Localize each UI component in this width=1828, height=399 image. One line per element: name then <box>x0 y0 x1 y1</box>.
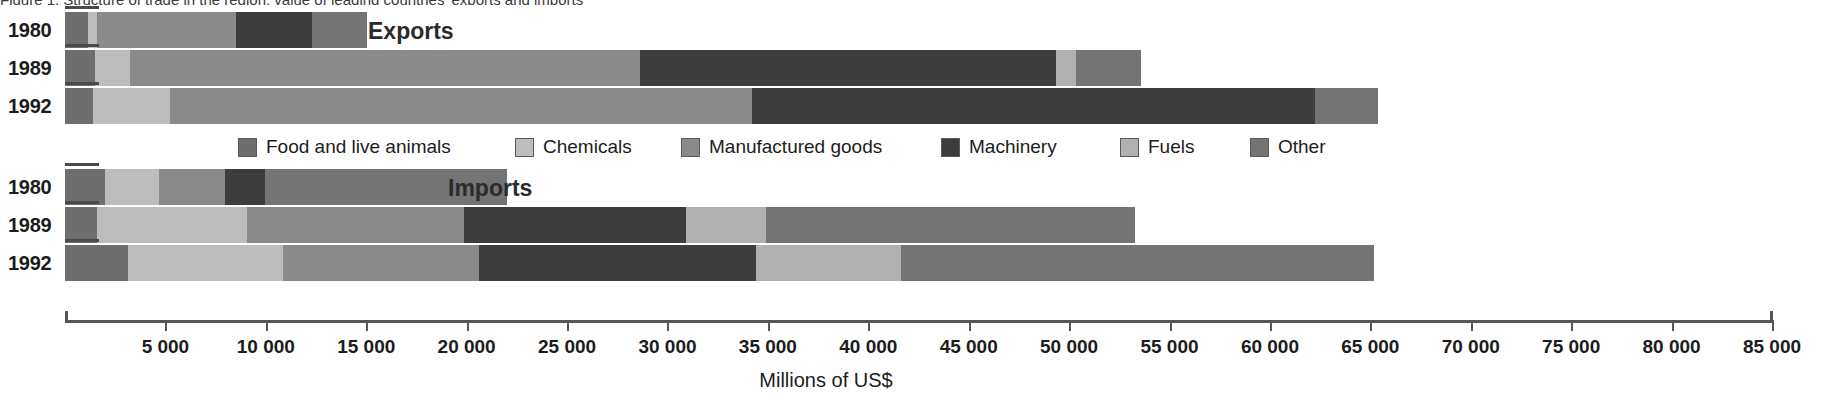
bar-segment[interactable] <box>1076 50 1141 86</box>
legend-item[interactable]: Food and live animals <box>238 136 451 158</box>
x-axis-title: Millions of US$ <box>759 369 892 392</box>
category-tick-stub <box>65 44 99 47</box>
x-axis-tick <box>1471 320 1473 331</box>
stacked-bar[interactable] <box>65 12 367 48</box>
x-axis-tick-label: 5 000 <box>142 336 190 358</box>
category-label-imports-1992: 1992 <box>8 252 64 275</box>
bar-segment[interactable] <box>686 207 766 243</box>
category-tick-stub <box>65 163 99 166</box>
x-axis-start-cap <box>65 311 68 323</box>
bar-segment[interactable] <box>312 12 367 48</box>
bar-segment[interactable] <box>65 245 128 281</box>
x-axis-tick <box>667 320 669 331</box>
bar-segment[interactable] <box>97 207 247 243</box>
bar-segment[interactable] <box>283 245 479 281</box>
legend-item[interactable]: Fuels <box>1120 136 1194 158</box>
x-axis-tick-label: 10 000 <box>237 336 295 358</box>
bar-segment[interactable] <box>1056 50 1076 86</box>
x-axis-tick-label: 70 000 <box>1442 336 1500 358</box>
bar-segment[interactable] <box>65 50 95 86</box>
x-axis-tick-label: 20 000 <box>438 336 496 358</box>
legend-label: Machinery <box>969 136 1057 158</box>
bar-segment[interactable] <box>640 50 1056 86</box>
category-tick-stub <box>65 239 99 242</box>
legend-item[interactable]: Chemicals <box>515 136 632 158</box>
stacked-bar[interactable] <box>65 207 1135 243</box>
x-axis-tick-label: 40 000 <box>839 336 897 358</box>
x-axis-tick-label: 65 000 <box>1341 336 1399 358</box>
bar-segment[interactable] <box>105 169 159 205</box>
x-axis-tick-label: 35 000 <box>739 336 797 358</box>
stacked-bar[interactable] <box>65 169 507 205</box>
legend-label: Food and live animals <box>266 136 451 158</box>
x-axis-tick <box>567 320 569 331</box>
bar-segment[interactable] <box>766 207 1135 243</box>
legend-label: Fuels <box>1148 136 1194 158</box>
category-tick-stub <box>65 201 99 204</box>
x-axis-tick-label: 50 000 <box>1040 336 1098 358</box>
x-axis-tick-label: 60 000 <box>1241 336 1299 358</box>
x-axis-tick-label: 80 000 <box>1643 336 1701 358</box>
x-axis-tick <box>868 320 870 331</box>
legend-label: Manufactured goods <box>709 136 882 158</box>
x-axis-tick <box>1571 320 1573 331</box>
category-tick-stub <box>65 82 99 85</box>
bar-segment[interactable] <box>464 207 686 243</box>
bar-segment[interactable] <box>128 245 283 281</box>
bar-segment[interactable] <box>756 245 901 281</box>
bar-segment[interactable] <box>97 12 236 48</box>
legend-swatch-icon <box>238 138 257 157</box>
x-axis-tick <box>165 320 167 331</box>
bar-segment[interactable] <box>159 169 225 205</box>
legend-swatch-icon <box>941 138 960 157</box>
bar-segment[interactable] <box>479 245 756 281</box>
x-axis-tick <box>1370 320 1372 331</box>
bar-segment[interactable] <box>65 12 88 48</box>
legend-swatch-icon <box>1250 138 1269 157</box>
stacked-bar[interactable] <box>65 245 1374 281</box>
bar-segment[interactable] <box>170 88 752 124</box>
bar-segment[interactable] <box>65 207 97 243</box>
bar-segment[interactable] <box>88 12 97 48</box>
category-label-imports-1980: 1980 <box>8 176 64 199</box>
x-axis-tick <box>266 320 268 331</box>
legend-swatch-icon <box>515 138 534 157</box>
bar-segment[interactable] <box>901 245 1374 281</box>
x-axis-tick-label: 45 000 <box>940 336 998 358</box>
x-axis-line <box>65 320 1772 323</box>
bar-segment[interactable] <box>236 12 312 48</box>
legend-item[interactable]: Machinery <box>941 136 1057 158</box>
bar-segment[interactable] <box>1315 88 1378 124</box>
stacked-bar[interactable] <box>65 50 1141 86</box>
bar-segment[interactable] <box>752 88 1315 124</box>
bar-segment[interactable] <box>93 88 170 124</box>
bar-segment[interactable] <box>130 50 640 86</box>
legend-item[interactable]: Other <box>1250 136 1326 158</box>
bar-segment[interactable] <box>95 50 130 86</box>
x-axis-tick <box>366 320 368 331</box>
x-axis-tick <box>1170 320 1172 331</box>
x-axis-tick <box>768 320 770 331</box>
stacked-bar[interactable] <box>65 88 1378 124</box>
x-axis-tick <box>969 320 971 331</box>
legend-label: Other <box>1278 136 1326 158</box>
x-axis-tick <box>1772 320 1774 331</box>
group-title-exports: Exports <box>368 18 454 45</box>
bar-segment[interactable] <box>225 169 265 205</box>
category-label-exports-1992: 1992 <box>8 95 64 118</box>
category-label-exports-1980: 1980 <box>8 19 64 42</box>
bar-segment[interactable] <box>65 88 93 124</box>
bar-segment[interactable] <box>65 169 105 205</box>
x-axis-tick <box>1672 320 1674 331</box>
bar-segment[interactable] <box>247 207 464 243</box>
category-tick-stub <box>65 6 99 9</box>
x-axis-tick-label: 85 000 <box>1743 336 1801 358</box>
legend-swatch-icon <box>681 138 700 157</box>
x-axis-tick-label: 15 000 <box>337 336 395 358</box>
group-title-imports: Imports <box>448 175 532 202</box>
x-axis-tick-label: 75 000 <box>1542 336 1600 358</box>
legend-item[interactable]: Manufactured goods <box>681 136 882 158</box>
x-axis-tick-label: 30 000 <box>638 336 696 358</box>
category-label-exports-1989: 1989 <box>8 57 64 80</box>
x-axis-tick <box>467 320 469 331</box>
